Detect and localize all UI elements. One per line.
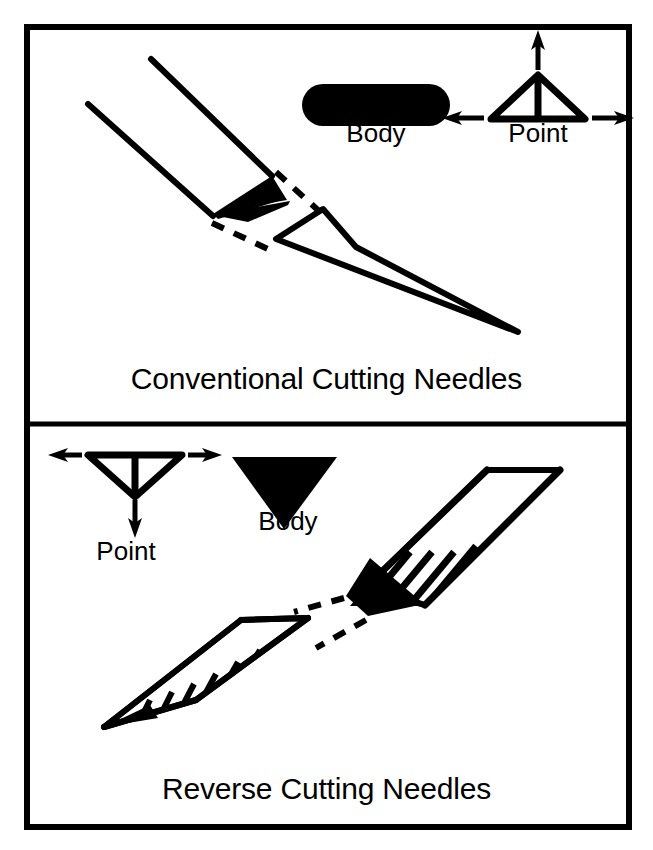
- arrow-down-icon: [128, 500, 142, 538]
- conventional-needle-shaft: [88, 59, 272, 216]
- key-point-shape-reverse: [48, 448, 222, 538]
- key-point-label-conventional: Point: [478, 118, 598, 149]
- key-point-shape-conventional: [442, 30, 634, 125]
- conventional-panel-caption: Conventional Cutting Needles: [0, 362, 653, 396]
- key-body-label-reverse: Body: [228, 506, 348, 537]
- conventional-needle-tip: [276, 209, 518, 332]
- arrow-up-icon: [531, 30, 545, 70]
- key-point-label-reverse: Point: [66, 536, 186, 567]
- reverse-needle-tip: [104, 618, 308, 740]
- needle-comparison-figure: Body Point Body Point Conventional Cutti…: [0, 0, 653, 850]
- reverse-panel-caption: Reverse Cutting Needles: [0, 772, 653, 806]
- reverse-panel-drawing: [48, 448, 586, 740]
- conventional-panel-drawing: [88, 30, 634, 332]
- arrow-right-icon: [188, 448, 222, 462]
- arrow-left-icon: [48, 448, 82, 462]
- key-body-label-conventional: Body: [316, 118, 436, 149]
